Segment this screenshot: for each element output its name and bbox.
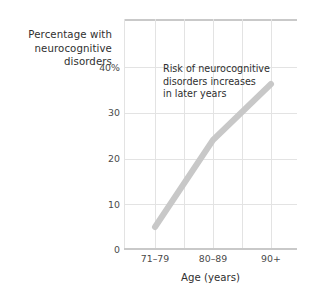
x-tick-label-90-plus: 90+ bbox=[241, 253, 301, 264]
annotation-line-1: Risk of neurocognitive bbox=[163, 63, 289, 76]
y-tick-label-10: 10 bbox=[86, 199, 120, 210]
annotation-line-3: in later years bbox=[163, 88, 289, 101]
y-tick-label-20: 20 bbox=[86, 153, 120, 164]
y-axis-title-line-2: neurocognitive bbox=[4, 42, 112, 56]
chart-annotation: Risk of neurocognitive disorders increas… bbox=[163, 63, 289, 101]
series-polyline bbox=[155, 84, 271, 227]
annotation-line-2: disorders increases bbox=[163, 76, 289, 89]
x-tick-label-71-79: 71–79 bbox=[125, 253, 185, 264]
y-axis-title-line-1: Percentage with bbox=[4, 28, 112, 42]
y-tick-label-40: 40% bbox=[86, 62, 120, 73]
chart-figure: Percentage with neurocognitive disorders… bbox=[0, 0, 309, 297]
y-tick-label-30: 30 bbox=[86, 107, 120, 118]
x-axis-title: Age (years) bbox=[124, 272, 297, 283]
data-series-line bbox=[124, 19, 297, 250]
x-axis-line bbox=[124, 248, 297, 251]
x-tick-label-80-89: 80–89 bbox=[183, 253, 243, 264]
plot-area bbox=[124, 19, 297, 250]
y-tick-label-0: 0 bbox=[86, 244, 120, 255]
